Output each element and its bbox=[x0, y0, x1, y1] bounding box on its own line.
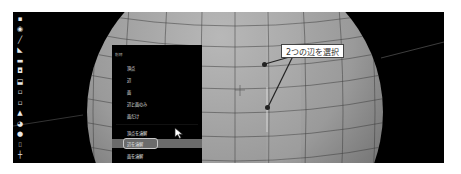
callout-leaders bbox=[0, 0, 461, 174]
edge-marker-dot bbox=[262, 62, 267, 67]
annotation-callout: 2つの辺を選択 bbox=[281, 44, 344, 58]
edge-marker-dot bbox=[265, 105, 270, 110]
